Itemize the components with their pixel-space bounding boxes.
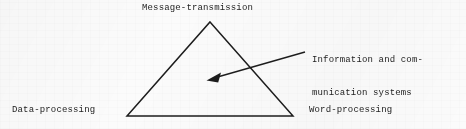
- annotation-line-1: Information and com-: [312, 55, 423, 66]
- vertex-label-data-processing: Data-processing: [12, 105, 95, 116]
- annotation-arrow-line: [214, 52, 305, 78]
- triangle-outline: [127, 22, 293, 116]
- annotation-arrow: [207, 52, 306, 83]
- triangle-shape: [127, 22, 293, 116]
- annotation-arrow-head: [207, 73, 222, 83]
- vertex-label-message-transmission: Message-transmission: [142, 3, 253, 14]
- annotation-label: Information and com- munication systems: [312, 33, 423, 121]
- figure-canvas: Message-transmission Data-processing Wor…: [0, 0, 466, 129]
- annotation-line-2: munication systems: [312, 88, 423, 99]
